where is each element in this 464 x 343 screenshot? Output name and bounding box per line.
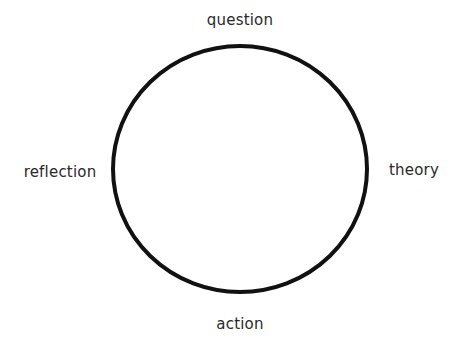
label-question: question bbox=[207, 11, 273, 29]
cycle-diagram: question theory action reflection bbox=[0, 0, 464, 343]
label-action: action bbox=[216, 315, 263, 333]
label-reflection: reflection bbox=[24, 163, 97, 181]
label-theory: theory bbox=[389, 161, 439, 179]
